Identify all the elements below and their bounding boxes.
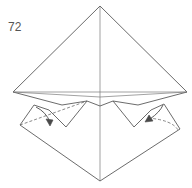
origami-diagram xyxy=(0,0,192,188)
right-flap xyxy=(100,101,180,181)
left-flap xyxy=(20,101,100,181)
